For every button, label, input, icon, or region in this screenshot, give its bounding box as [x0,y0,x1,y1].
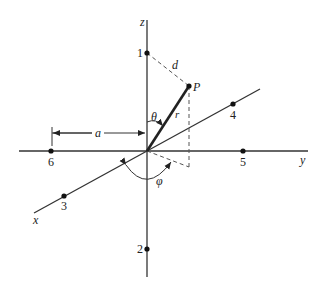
point-6 [48,148,53,153]
dimension-a-label: a [95,126,101,140]
point-5 [240,148,245,153]
distance-d-label: d [172,58,179,72]
point-3 [61,193,66,198]
point-P [186,83,191,88]
x-axis-label: x [32,213,39,227]
point-1-label: 1 [137,46,143,60]
xy-plane-projection-line [147,151,189,167]
distance-d-line [147,53,189,86]
point-2 [144,246,149,251]
theta-label: θ [151,110,157,124]
spherical-coordinates-diagram: z y x 1 2 3 4 5 6 P d r θ φ a [0,0,322,294]
point-4-label: 4 [230,108,236,122]
z-axis-label: z [139,15,145,29]
phi-label: φ [156,174,163,188]
point-1 [144,50,149,55]
point-5-label: 5 [240,155,246,169]
point-P-label: P [192,80,201,94]
point-3-label: 3 [61,199,67,213]
y-axis-label: y [299,153,306,167]
point-2-label: 2 [137,242,143,256]
point-6-label: 6 [48,155,54,169]
point-4 [230,101,235,106]
phi-arc [126,162,171,179]
radius-r-label: r [175,108,180,120]
